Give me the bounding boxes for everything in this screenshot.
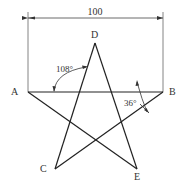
vertex-label-D: D <box>91 29 98 40</box>
angle-arrow-36-top <box>136 80 140 86</box>
vertex-label-A: A <box>11 86 19 97</box>
vertex-label-C: C <box>40 163 47 174</box>
pentagram <box>28 43 163 169</box>
vertex-label-B: B <box>169 86 176 97</box>
edge-B-C <box>55 92 163 169</box>
angle-label-36: 36° <box>124 98 137 108</box>
angle-label-108: 108° <box>56 64 74 74</box>
edge-D-C <box>55 43 95 169</box>
vertex-label-E: E <box>134 171 140 182</box>
dimension-arrow-left <box>28 17 35 20</box>
dimension-label: 100 <box>88 6 103 17</box>
star-diagram: 100 108° 36° A B C D E <box>0 0 186 189</box>
edge-A-E <box>28 92 137 169</box>
angle-arrow-108-bottom <box>53 86 57 92</box>
